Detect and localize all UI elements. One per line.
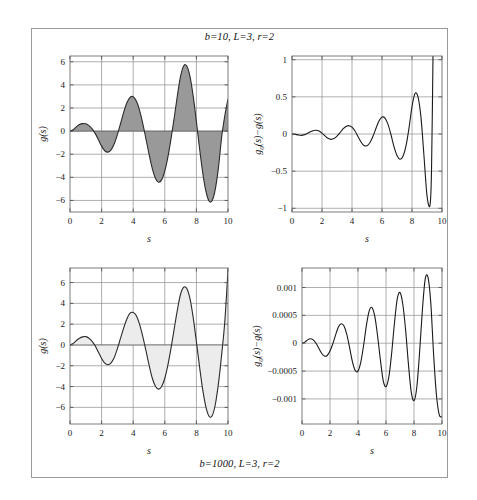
figure-root: b=10, L=3, r=2 0246810−6−4−20246sg(s) 02… (0, 0, 477, 500)
y-axis-label: g(s) (37, 126, 49, 142)
y-tick-label: −2 (55, 149, 65, 159)
y-axis-label: g0(s)−g(s) (251, 325, 265, 367)
figure-title-top: b=10, L=3, r=2 (31, 31, 448, 42)
x-axis-label: s (370, 445, 374, 456)
x-tick-label: 8 (410, 216, 415, 226)
y-tick-label: 2 (61, 319, 66, 329)
plot-area (302, 268, 442, 424)
x-tick-label: 2 (328, 428, 333, 438)
x-tick-label: 2 (320, 216, 325, 226)
y-tick-label: −0.001 (272, 394, 297, 404)
y-tick-label: 0 (61, 126, 66, 136)
y-tick-label: −4 (55, 382, 65, 392)
x-tick-label: 4 (131, 428, 136, 438)
y-tick-label: 0.5 (276, 92, 288, 102)
y-tick-label: −6 (55, 195, 65, 205)
x-tick-label: 4 (350, 216, 355, 226)
x-axis-label: s (147, 445, 151, 456)
x-axis-label: s (147, 233, 151, 244)
plot-panel-bottom-right: 0246810−0.001−0.000500.00050.001sg0(s)−g… (248, 258, 448, 458)
chart-bottom-right: 0246810−0.001−0.000500.00050.001sg0(s)−g… (248, 258, 448, 458)
x-tick-label: 0 (300, 428, 305, 438)
chart-top-right: 0246810−1−0.500.51sg0(s)−g(s) (248, 46, 448, 246)
y-tick-label: −0.5 (271, 166, 288, 176)
y-tick-label: −2 (55, 361, 65, 371)
y-axis-label: g(s) (37, 338, 49, 354)
chart-bottom-left: 0246810−6−4−20246sg(s) (34, 258, 234, 458)
chart-top-left: 0246810−6−4−20246sg(s) (34, 46, 234, 246)
y-tick-label: −4 (55, 172, 65, 182)
x-tick-label: 6 (163, 216, 168, 226)
y-tick-label: 0 (283, 129, 288, 139)
y-tick-label: 0 (61, 340, 66, 350)
x-tick-label: 0 (68, 216, 73, 226)
x-tick-label: 6 (380, 216, 385, 226)
x-tick-label: 6 (384, 428, 389, 438)
y-tick-label: −1 (277, 203, 287, 213)
x-tick-label: 4 (356, 428, 361, 438)
x-tick-label: 10 (224, 216, 234, 226)
y-tick-label: 0.0005 (272, 310, 297, 320)
y-tick-label: 6 (61, 278, 66, 288)
plot-panel-bottom-left: 0246810−6−4−20246sg(s) (34, 258, 234, 458)
x-tick-label: 0 (68, 428, 73, 438)
x-tick-label: 8 (412, 428, 417, 438)
x-tick-label: 10 (438, 428, 448, 438)
y-axis-label: g0(s)−g(s) (252, 113, 266, 155)
y-tick-label: 4 (61, 298, 66, 308)
x-axis-label: s (365, 233, 369, 244)
plot-panel-top-left: 0246810−6−4−20246sg(s) (34, 46, 234, 246)
y-tick-label: −6 (55, 402, 65, 412)
y-tick-label: 1 (283, 55, 288, 65)
x-tick-label: 8 (194, 216, 199, 226)
x-tick-label: 2 (99, 428, 104, 438)
y-tick-label: 4 (61, 80, 66, 90)
x-tick-label: 8 (194, 428, 199, 438)
y-tick-label: 0.001 (277, 283, 297, 293)
x-tick-label: 2 (99, 216, 104, 226)
plot-panel-top-right: 0246810−1−0.500.51sg0(s)−g(s) (248, 46, 448, 246)
y-tick-label: 2 (61, 103, 66, 113)
y-tick-label: −0.0005 (267, 366, 297, 376)
x-tick-label: 10 (438, 216, 448, 226)
x-tick-label: 6 (163, 428, 168, 438)
y-tick-label: 0 (293, 338, 298, 348)
x-tick-label: 0 (290, 216, 295, 226)
y-tick-label: 6 (61, 57, 66, 67)
x-tick-label: 10 (224, 428, 234, 438)
x-tick-label: 4 (131, 216, 136, 226)
figure-title-bottom: b=1000, L=3, r=2 (31, 458, 448, 469)
